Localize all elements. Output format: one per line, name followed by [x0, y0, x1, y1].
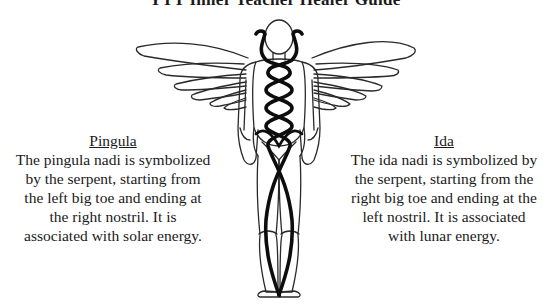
pingula-line: by the serpent, starting from — [2, 169, 224, 188]
ida-description: Ida The ida nadi is symbolized by the se… — [330, 131, 550, 245]
right-wing-icon — [312, 42, 415, 110]
ida-heading: Ida — [330, 131, 550, 150]
pingula-description: Pingula The pingula nadi is symbolized b… — [2, 131, 224, 245]
pingula-line: The pingula nadi is symbolized — [2, 150, 224, 169]
pingula-line: associated with solar energy. — [2, 226, 224, 245]
ida-line: left nostril. It is associated — [330, 207, 550, 226]
torso-icon — [253, 59, 306, 146]
ida-line: The ida nadi is symbolized by — [330, 150, 550, 169]
head-icon — [265, 20, 293, 54]
ida-line: right big toe and ending at the — [330, 188, 550, 207]
ida-line: the serpent, starting from the — [330, 169, 550, 188]
pingula-heading: Pingula — [2, 131, 224, 150]
pingula-line: the left big toe and ending at — [2, 188, 224, 207]
ida-line: with lunar energy. — [330, 226, 550, 245]
pingula-line: the right nostril. It is — [2, 207, 224, 226]
left-wing-icon — [136, 43, 248, 109]
